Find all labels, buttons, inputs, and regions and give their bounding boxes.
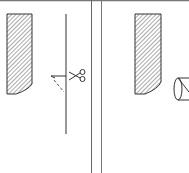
left-hatched-strip — [7, 14, 32, 94]
dashed-cut-line — [51, 76, 66, 92]
cylinder-roller-icon — [174, 78, 189, 100]
diagram-figure — [0, 0, 189, 173]
scissors-icon — [69, 70, 85, 82]
right-hatched-strip — [135, 14, 161, 94]
